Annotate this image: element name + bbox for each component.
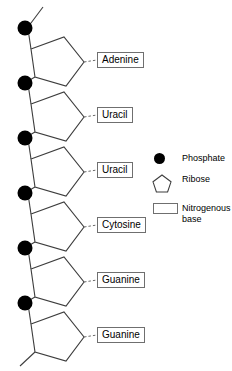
ribose-4	[31, 202, 84, 251]
legend-label: Ribose	[182, 173, 210, 185]
phosphate-2	[18, 76, 33, 91]
base-label-box: Guanine	[97, 327, 145, 343]
phosphate-6	[18, 296, 33, 311]
phosphate-4	[18, 186, 33, 201]
base-connector-6	[84, 335, 97, 337]
base-connector-2	[84, 115, 97, 117]
base-connector-5	[84, 280, 97, 282]
legend-item-nitrogenous-base: Nitrogenous base	[152, 202, 232, 225]
ribose-3	[31, 147, 84, 196]
base-label-box: Adenine	[97, 52, 144, 68]
chain-bond-trailing	[20, 352, 35, 366]
base-label-box: Uracil	[97, 162, 133, 178]
base-label-box: Cytosine	[97, 217, 146, 233]
filled-circle-icon	[152, 152, 182, 164]
ribose-6	[31, 312, 84, 361]
ribose-1	[31, 37, 84, 86]
base-label-box: Guanine	[97, 272, 145, 288]
legend-item-phosphate: Phosphate	[152, 152, 232, 164]
pentagon-icon	[152, 173, 182, 193]
rectangle-icon	[152, 202, 182, 214]
base-connector-4	[84, 225, 97, 227]
ribose-2	[31, 92, 84, 141]
phosphate-5	[18, 241, 33, 256]
legend-label: Phosphate	[182, 152, 225, 164]
base-label-box: Uracil	[97, 107, 133, 123]
base-connector-1	[84, 60, 97, 62]
base-connector-3	[84, 170, 97, 172]
phosphate-3	[18, 131, 33, 146]
rna-structure-diagram: Adenine Uracil Uracil Cytosine Guanine G…	[0, 0, 232, 371]
legend-item-ribose: Ribose	[152, 173, 232, 193]
legend: Phosphate Ribose Nitrogenous base	[152, 152, 232, 234]
phosphate-1	[18, 21, 33, 36]
ribose-5	[31, 257, 84, 306]
legend-label: Nitrogenous base	[182, 202, 232, 225]
